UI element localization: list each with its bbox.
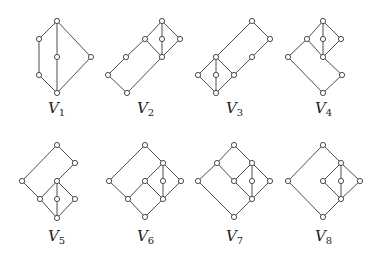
lattice-edge bbox=[198, 181, 234, 217]
lattice-edge bbox=[341, 163, 360, 181]
lattice-edge bbox=[288, 39, 307, 57]
lattice-node bbox=[231, 142, 236, 147]
lattice-node bbox=[231, 72, 236, 77]
lattice-node bbox=[36, 36, 41, 41]
lattice-edge bbox=[162, 39, 180, 57]
lattice-v2: V2 bbox=[105, 18, 182, 118]
lattice-node bbox=[160, 178, 165, 183]
lattice-edge bbox=[323, 163, 341, 181]
lattice-edge bbox=[128, 199, 145, 217]
lattice-edge bbox=[234, 163, 252, 181]
lattice-label: V7 bbox=[226, 227, 243, 246]
lattice-node bbox=[304, 36, 309, 41]
lattice-v1: V1 bbox=[36, 18, 93, 118]
lattice-node bbox=[105, 72, 110, 77]
lattice-node bbox=[357, 178, 362, 183]
lattice-edge bbox=[323, 199, 341, 217]
lattice-node bbox=[320, 36, 325, 41]
lattice-node bbox=[249, 54, 254, 59]
lattice-edge bbox=[22, 181, 40, 199]
lattice-node bbox=[285, 54, 290, 59]
lattice-edge bbox=[288, 57, 323, 93]
lattice-edge bbox=[341, 181, 360, 199]
lattice-node bbox=[123, 54, 128, 59]
lattice-edge bbox=[145, 163, 163, 181]
lattice-edge bbox=[323, 145, 341, 163]
lattice-node bbox=[195, 72, 200, 77]
lattice-label: V3 bbox=[226, 99, 243, 118]
lattice-edge bbox=[163, 163, 181, 181]
lattice-node bbox=[338, 196, 343, 201]
lattice-node bbox=[54, 90, 59, 95]
lattice-edge bbox=[198, 163, 217, 181]
lattice-edge bbox=[307, 21, 323, 39]
lattice-edge bbox=[288, 145, 323, 181]
lattice-edge bbox=[40, 199, 57, 218]
lattice-node bbox=[249, 160, 254, 165]
lattice-edge bbox=[288, 181, 323, 217]
lattice-node bbox=[160, 160, 165, 165]
lattice-node bbox=[338, 160, 343, 165]
lattice-edge bbox=[217, 163, 234, 181]
lattice-edge bbox=[145, 39, 162, 57]
lattice-node bbox=[231, 178, 236, 183]
lattice-node bbox=[19, 178, 24, 183]
lattice-node bbox=[320, 18, 325, 23]
lattice-edge bbox=[234, 199, 252, 217]
lattice-edge bbox=[57, 181, 75, 199]
lattice-node bbox=[267, 178, 272, 183]
lattice-node bbox=[142, 178, 147, 183]
lattice-edge bbox=[39, 75, 57, 93]
lattice-node bbox=[159, 36, 164, 41]
lattice-node bbox=[213, 54, 218, 59]
lattice-edge bbox=[252, 39, 270, 57]
lattice-edge bbox=[217, 145, 234, 163]
lattice-node bbox=[54, 196, 59, 201]
lattice-v3: V3 bbox=[195, 18, 272, 118]
lattice-edge bbox=[198, 75, 216, 93]
lattice-v7: V7 bbox=[195, 142, 272, 246]
lattice-edge bbox=[323, 75, 342, 93]
lattice-edge bbox=[198, 57, 216, 75]
lattice-node bbox=[338, 36, 343, 41]
lattice-edge bbox=[252, 163, 270, 181]
lattice-v5: V5 bbox=[19, 142, 77, 246]
lattice-edge bbox=[234, 181, 252, 199]
lattice-node bbox=[54, 18, 59, 23]
lattice-edge bbox=[162, 21, 180, 39]
lattice-edge bbox=[127, 57, 162, 93]
lattice-label: V6 bbox=[137, 227, 154, 246]
lattice-node bbox=[320, 54, 325, 59]
lattice-edge bbox=[57, 199, 75, 218]
lattice-node bbox=[249, 18, 254, 23]
lattice-edge bbox=[216, 75, 234, 93]
lattice-node bbox=[37, 196, 42, 201]
lattice-diagram-figure: V1V2V3V4V5V6V7V8 bbox=[0, 0, 378, 257]
lattice-node bbox=[285, 178, 290, 183]
lattice-edge bbox=[234, 145, 252, 163]
lattice-edge bbox=[39, 21, 57, 39]
lattice-v8: V8 bbox=[285, 142, 362, 246]
lattice-edge bbox=[216, 57, 234, 75]
lattice-edge bbox=[145, 21, 162, 39]
lattice-node bbox=[178, 178, 183, 183]
lattice-edge bbox=[323, 21, 341, 39]
lattice-node bbox=[54, 178, 59, 183]
lattice-node bbox=[320, 178, 325, 183]
lattice-edge bbox=[323, 181, 341, 199]
lattice-node bbox=[106, 178, 111, 183]
lattice-node bbox=[195, 178, 200, 183]
lattice-node bbox=[249, 196, 254, 201]
lattice-label: V5 bbox=[48, 227, 65, 246]
lattice-node bbox=[142, 214, 147, 219]
lattice-edge bbox=[252, 181, 270, 199]
lattice-node bbox=[213, 90, 218, 95]
lattice-node bbox=[249, 178, 254, 183]
lattice-node bbox=[142, 36, 147, 41]
lattice-edge bbox=[323, 39, 341, 57]
lattice-edge bbox=[252, 21, 270, 39]
lattice-edge bbox=[109, 181, 128, 199]
lattice-edge bbox=[323, 57, 342, 75]
lattice-v4: V4 bbox=[285, 18, 344, 118]
lattice-edge bbox=[163, 181, 181, 199]
